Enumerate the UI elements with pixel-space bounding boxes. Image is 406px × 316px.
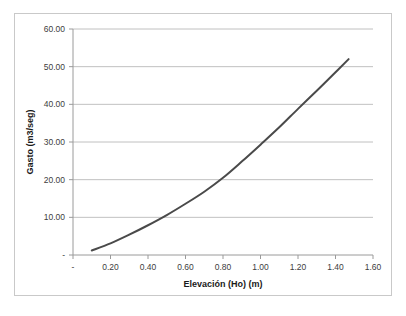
y-tick-label: 50.00 xyxy=(44,62,66,72)
y-tick-label: - xyxy=(62,250,65,260)
data-series-line xyxy=(92,59,349,250)
y-tick-label: 20.00 xyxy=(44,175,66,185)
x-tick-label: 1.20 xyxy=(290,262,307,272)
x-tick-label: 1.40 xyxy=(327,262,344,272)
y-tick-label: 10.00 xyxy=(44,212,66,222)
gridlines xyxy=(73,29,373,217)
x-axis-ticks xyxy=(73,255,373,259)
chart-plot: -0.200.400.600.801.001.201.401.60 -10.00… xyxy=(0,0,406,316)
x-tick-label: 0.40 xyxy=(140,262,157,272)
x-tick-label: 1.00 xyxy=(252,262,269,272)
y-tick-label: 60.00 xyxy=(44,24,66,34)
y-tick-label: 30.00 xyxy=(44,137,66,147)
y-tick-label: 40.00 xyxy=(44,99,66,109)
x-tick-label: 0.80 xyxy=(215,262,232,272)
x-axis-tick-labels: -0.200.400.600.801.001.201.401.60 xyxy=(72,262,382,272)
y-axis-ticks xyxy=(69,29,73,255)
x-tick-label: 0.20 xyxy=(102,262,119,272)
y-axis-tick-labels: -10.0020.0030.0040.0050.0060.00 xyxy=(44,24,66,260)
x-axis-title: Elevación (Ho) (m) xyxy=(183,279,262,289)
x-tick-label: 0.60 xyxy=(177,262,194,272)
x-tick-label: 1.60 xyxy=(365,262,382,272)
x-tick-label: - xyxy=(72,262,75,272)
y-axis-title: Gasto (m3/seg) xyxy=(25,109,35,174)
